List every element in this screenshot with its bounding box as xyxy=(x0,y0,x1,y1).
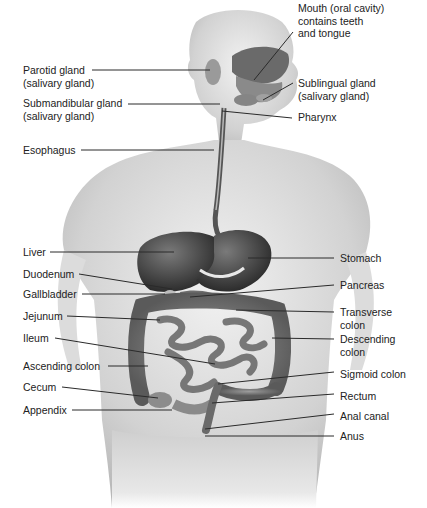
label-anus: Anus xyxy=(340,430,364,443)
label-anal-canal: Anal canal xyxy=(340,410,389,423)
label-sublingual-gland: Sublingual gland (salivary gland) xyxy=(298,77,376,102)
label-line: Pancreas xyxy=(340,279,384,292)
label-line: Mouth (oral cavity) xyxy=(298,2,384,15)
label-descending-colon: Descending colon xyxy=(340,333,395,358)
label-line: Submandibular gland xyxy=(23,97,122,110)
cecum-shape xyxy=(148,392,172,408)
label-cecum: Cecum xyxy=(23,381,56,394)
submandibular-gland-shape xyxy=(234,94,258,106)
label-line: Stomach xyxy=(340,252,381,265)
label-line: colon xyxy=(340,346,395,359)
label-line: Parotid gland xyxy=(23,64,94,77)
label-sigmoid-colon: Sigmoid colon xyxy=(340,368,406,381)
label-duodenum: Duodenum xyxy=(23,268,74,281)
digestive-system-diagram: Parotid gland (salivary gland) Submandib… xyxy=(0,0,427,508)
bladder-area xyxy=(174,404,212,409)
label-line: contains teeth xyxy=(298,15,384,28)
label-line: Sigmoid colon xyxy=(340,368,406,381)
label-parotid-gland: Parotid gland (salivary gland) xyxy=(23,64,94,89)
parotid-gland-shape xyxy=(205,59,221,85)
label-line: (salivary gland) xyxy=(23,110,122,123)
label-line: Descending xyxy=(340,333,395,346)
label-line: colon xyxy=(340,319,392,332)
label-line: Duodenum xyxy=(23,268,74,281)
label-appendix: Appendix xyxy=(23,404,67,417)
label-ascending-colon: Ascending colon xyxy=(23,360,100,373)
label-mouth: Mouth (oral cavity) contains teeth and t… xyxy=(298,2,384,40)
label-line: Gallbladder xyxy=(23,288,77,301)
label-line: Rectum xyxy=(340,390,376,403)
label-line: Sublingual gland xyxy=(298,77,376,90)
label-line: Appendix xyxy=(23,404,67,417)
label-transverse-colon: Transverse colon xyxy=(340,306,392,331)
label-rectum: Rectum xyxy=(340,390,376,403)
label-gallbladder: Gallbladder xyxy=(23,288,77,301)
label-line: Pharynx xyxy=(298,111,337,124)
label-jejunum: Jejunum xyxy=(23,310,63,323)
label-esophagus: Esophagus xyxy=(23,144,76,157)
sublingual-gland-shape xyxy=(256,94,272,102)
label-submandibular-gland: Submandibular gland (salivary gland) xyxy=(23,97,122,122)
label-line: Esophagus xyxy=(23,144,76,157)
label-line: (salivary gland) xyxy=(23,77,94,90)
label-pharynx: Pharynx xyxy=(298,111,337,124)
label-line: Anus xyxy=(340,430,364,443)
label-liver: Liver xyxy=(23,246,46,259)
label-line: Ileum xyxy=(23,332,49,345)
label-line: Anal canal xyxy=(340,410,389,423)
label-line: Liver xyxy=(23,246,46,259)
label-line: Ascending colon xyxy=(23,360,100,373)
label-line: Transverse xyxy=(340,306,392,319)
label-line: Jejunum xyxy=(23,310,63,323)
label-line: (salivary gland) xyxy=(298,90,376,103)
label-stomach: Stomach xyxy=(340,252,381,265)
label-pancreas: Pancreas xyxy=(340,279,384,292)
label-line: Cecum xyxy=(23,381,56,394)
label-line: and tongue xyxy=(298,27,384,40)
label-ileum: Ileum xyxy=(23,332,49,345)
